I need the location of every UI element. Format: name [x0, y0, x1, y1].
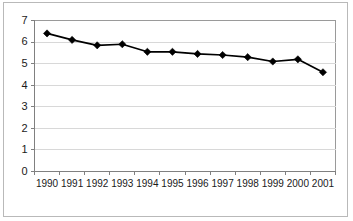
x-tick-label: 1995: [161, 178, 184, 189]
x-tick-label: 1992: [86, 178, 109, 189]
y-tick-label: 3: [21, 100, 27, 112]
x-tick-label: 2001: [312, 178, 335, 189]
x-tick-label: 1994: [136, 178, 159, 189]
y-tick-label: 0: [21, 165, 27, 177]
y-tick-label: 1: [21, 143, 27, 155]
x-tick-label: 1993: [111, 178, 134, 189]
y-axis: 01234567: [21, 14, 34, 177]
chart-outer-frame: 0123456719901991199219931994199519961997…: [3, 2, 348, 217]
x-tick-label: 1997: [212, 178, 235, 189]
y-tick-label: 4: [21, 79, 27, 91]
line-chart: 0123456719901991199219931994199519961997…: [4, 3, 347, 216]
x-tick-label: 1999: [262, 178, 285, 189]
x-tick-label: 1991: [61, 178, 84, 189]
x-tick-label: 2000: [287, 178, 310, 189]
x-axis: 1990199119921993199419951996199719981999…: [35, 172, 336, 189]
plot-area: [35, 21, 336, 172]
x-tick-label: 1998: [237, 178, 260, 189]
y-tick-label: 5: [21, 57, 27, 69]
x-tick-label: 1996: [186, 178, 209, 189]
y-tick-label: 7: [21, 14, 27, 26]
y-tick-label: 6: [21, 35, 27, 47]
y-tick-label: 2: [21, 122, 27, 134]
x-tick-label: 1990: [36, 178, 59, 189]
